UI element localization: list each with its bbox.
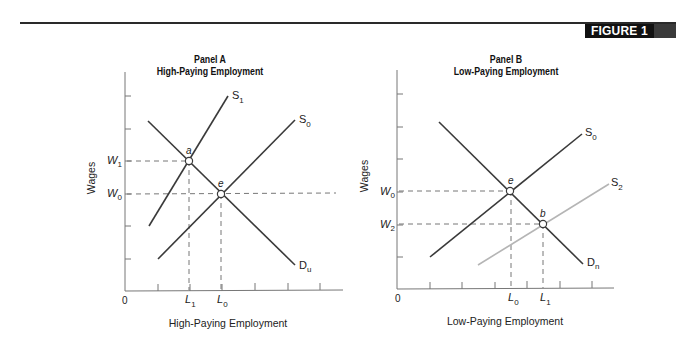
panel-b-label-s2: S2 <box>611 176 623 192</box>
panel-b-label-w2: W2 <box>380 218 395 233</box>
panel-a-label-a: a <box>186 145 192 156</box>
panel-a-point-a <box>185 157 192 164</box>
panel-b-y-label: Wages <box>358 160 370 192</box>
panel-b-label-s0: S0 <box>585 126 597 142</box>
panel-a-point-e <box>217 190 224 197</box>
panel-a-chart: a e S1 S0 Du W1 W0 L1 L0 0 High-Paying E… <box>85 72 343 329</box>
panel-b-point-b <box>539 220 546 227</box>
panel-b-label-b: b <box>540 208 546 219</box>
panel-a-label-s1: S1 <box>232 89 244 105</box>
panel-b-label-e: e <box>508 175 514 186</box>
panel-a-label-du: Du <box>299 259 311 274</box>
panel-a-x-label: High-Paying Employment <box>169 317 288 329</box>
panel-b-label-w0: W0 <box>380 185 395 200</box>
panel-b-s0-curve <box>430 134 582 257</box>
panel-a-label-l1: L1 <box>185 293 196 309</box>
panel-a-label-w0: W0 <box>107 187 122 202</box>
panel-a-y-label: Wages <box>85 162 97 194</box>
panel-b-guides <box>399 191 543 288</box>
panel-a-label-e: e <box>218 178 224 189</box>
panel-a-origin: 0 <box>122 295 128 306</box>
panel-b-chart: e b S0 S2 Dn W0 W2 L0 L1 0 Low-Paying Em… <box>358 70 623 327</box>
panel-b-label-l1: L1 <box>540 291 551 307</box>
figure-canvas: a e S1 S0 Du W1 W0 L1 L0 0 High-Paying E… <box>0 0 694 351</box>
panel-b-origin: 0 <box>395 293 401 304</box>
panel-b-label-l0: L0 <box>508 291 519 307</box>
panel-a-label-s0: S0 <box>299 113 311 129</box>
panel-b-point-e <box>506 187 513 194</box>
panel-a-s0-curve <box>158 120 295 259</box>
panel-b-y-ticks <box>397 94 403 257</box>
panel-b-label-dn: Dn <box>587 256 599 271</box>
panel-b-x-label: Low-Paying Employment <box>447 315 563 327</box>
panel-a-label-w1: W1 <box>107 154 122 169</box>
panel-a-y-ticks <box>125 96 131 259</box>
panel-a-label-l0: L0 <box>217 293 228 309</box>
